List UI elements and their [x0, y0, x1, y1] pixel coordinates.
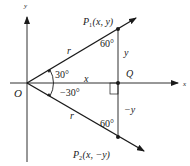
ray-op1: r — [27, 18, 136, 83]
point-p2 — [116, 135, 120, 139]
q-label: Q — [126, 68, 134, 79]
right-angle-marker — [110, 83, 118, 94]
op1-length-label: r — [67, 45, 71, 56]
y-axis-label: y — [23, 2, 28, 10]
p2-label: P2(x, −y) — [72, 149, 111, 161]
x-axis-label: x — [182, 80, 187, 88]
qp2-length-label: −y — [124, 104, 136, 115]
angle-p1-label: 60° — [100, 38, 114, 49]
angle-p2-label: 60° — [100, 118, 114, 129]
point-p1 — [116, 27, 120, 31]
angle-upper-label: 30° — [55, 69, 69, 80]
angle-lower-label: −30° — [60, 87, 80, 98]
reflection-triangle-diagram: y x O r r P1(x, y) P2(x, −y) — [0, 0, 190, 166]
y-axis: y — [23, 2, 28, 162]
p1-label: P1(x, y) — [82, 16, 114, 28]
point-q — [116, 81, 120, 85]
ray-op2: r — [27, 83, 144, 151]
x-axis: x — [10, 80, 187, 88]
op2-length-label: r — [70, 110, 74, 121]
origin-label: O — [14, 87, 22, 99]
oq-length-label: x — [83, 73, 89, 84]
qp1-length-label: y — [123, 47, 129, 58]
